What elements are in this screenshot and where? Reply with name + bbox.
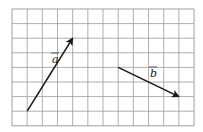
vector-a: a	[27, 38, 73, 111]
grid	[12, 9, 194, 126]
vector-diagram: ab	[0, 0, 203, 132]
vector-b-label: b	[150, 67, 157, 80]
vector-a-label: a	[52, 53, 59, 66]
vector-a-arrow	[27, 38, 73, 111]
